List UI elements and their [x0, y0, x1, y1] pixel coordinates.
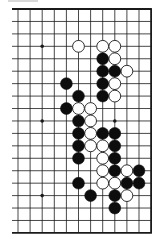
black-stone [109, 202, 121, 214]
black-stone [97, 65, 109, 77]
black-stone [73, 152, 85, 164]
star-point [40, 119, 44, 123]
go-board [0, 0, 163, 239]
black-stone [61, 78, 73, 90]
white-stone [73, 40, 85, 52]
white-stone [97, 177, 109, 189]
black-stone [73, 127, 85, 139]
black-stone [109, 165, 121, 177]
black-stone [133, 177, 145, 189]
white-stone [97, 140, 109, 152]
white-stone [121, 65, 133, 77]
star-point [113, 119, 117, 123]
white-stone [97, 152, 109, 164]
black-stone [109, 127, 121, 139]
black-stone [121, 177, 133, 189]
black-stone [73, 177, 85, 189]
white-stone [85, 115, 97, 127]
black-stone [97, 53, 109, 65]
white-stone [85, 103, 97, 115]
white-stone [85, 127, 97, 139]
white-stone [121, 190, 133, 202]
white-stone [109, 53, 121, 65]
white-stone [109, 177, 121, 189]
black-stone [73, 90, 85, 102]
black-stone [133, 165, 145, 177]
black-stone [97, 127, 109, 139]
black-stone [73, 115, 85, 127]
black-stone [109, 65, 121, 77]
white-stone [97, 165, 109, 177]
black-stone [61, 103, 73, 115]
white-stone [73, 103, 85, 115]
star-point [40, 194, 44, 198]
black-stone [109, 152, 121, 164]
white-stone [109, 90, 121, 102]
white-stone [109, 40, 121, 52]
black-stone [109, 190, 121, 202]
black-stone [97, 90, 109, 102]
white-stone [121, 165, 133, 177]
white-stone [85, 140, 97, 152]
white-stone [109, 78, 121, 90]
black-stone [109, 140, 121, 152]
white-stone [97, 40, 109, 52]
black-stone [97, 78, 109, 90]
black-stone [73, 140, 85, 152]
star-point [40, 45, 44, 49]
black-stone [85, 190, 97, 202]
